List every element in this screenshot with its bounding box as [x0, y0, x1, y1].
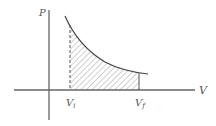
v-axis-label: V — [199, 84, 208, 97]
pv-diagram: P V Vi Vf — [0, 0, 216, 126]
vf-label: Vf — [135, 97, 146, 110]
work-area-hatched — [70, 27, 139, 90]
p-axis-label: P — [38, 7, 46, 18]
vi-label: Vi — [66, 97, 75, 110]
